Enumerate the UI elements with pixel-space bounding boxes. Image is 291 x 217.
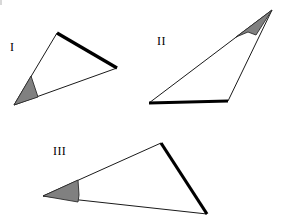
triangle-two [149,10,272,103]
figure-canvas: I II III [0,0,291,217]
triangle-one-label: I [10,41,14,53]
triangle-three-label: III [53,145,66,157]
triangle-two-label: II [157,35,166,47]
triangle-three-marked-angle [43,180,79,202]
triangle-two-marked-angle [236,10,272,37]
triangle-one [14,33,117,105]
triangles-diagram [0,0,291,217]
triangle-two-thick-edge [149,101,228,103]
triangle-three [43,143,207,214]
